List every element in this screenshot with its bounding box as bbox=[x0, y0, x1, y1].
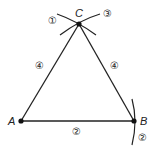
point-a bbox=[18, 118, 23, 123]
construction-diagram: A B C ① ③ ④ ④ ② ② bbox=[0, 0, 159, 148]
side-bc bbox=[79, 24, 134, 121]
step-label-side-bc: ④ bbox=[110, 60, 119, 71]
step-label-side-ab: ② bbox=[72, 126, 81, 137]
point-b bbox=[131, 118, 136, 123]
step-label-side-ac: ④ bbox=[35, 60, 44, 71]
side-ac bbox=[21, 24, 79, 121]
step-label-arc-right-c: ③ bbox=[103, 8, 112, 19]
label-a: A bbox=[7, 115, 15, 127]
step-label-arc-left-c: ① bbox=[48, 15, 57, 26]
step-label-arc-b: ② bbox=[138, 132, 147, 143]
point-c bbox=[76, 21, 81, 26]
label-c: C bbox=[75, 7, 83, 19]
label-b: B bbox=[140, 115, 147, 127]
